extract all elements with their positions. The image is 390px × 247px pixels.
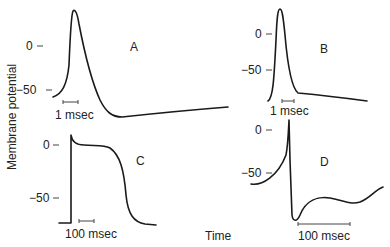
- panel-label-c: C: [136, 154, 145, 168]
- tick-minus-50: −50: [241, 63, 262, 77]
- tick-minus-50: −50: [29, 191, 50, 205]
- scale-bar-c: 100 msec: [65, 227, 117, 241]
- tick-zero: 0: [43, 138, 50, 152]
- panel-label-b: B: [320, 42, 328, 56]
- panel-a: 0 −50 1 msec A: [16, 10, 228, 122]
- x-axis-label: Time: [205, 229, 232, 243]
- y-axis-label: Membrane potential: [5, 64, 19, 170]
- scale-bar-a: 1 msec: [55, 108, 94, 122]
- panel-label-d: D: [320, 155, 329, 169]
- tick-minus-50: −50: [241, 166, 262, 180]
- panel-b: 0 −50 1 msec B: [241, 9, 367, 118]
- scale-bar-b: 1 msec: [270, 104, 309, 118]
- panel-c: 0 −50 100 msec C: [29, 135, 156, 241]
- panel-d: 0 −50 100 msec D: [241, 120, 383, 243]
- action-potential-figure: Membrane potential 0 −50 1 msec A 0 −50 …: [0, 0, 390, 247]
- trace-c: [59, 135, 156, 225]
- tick-zero: 0: [26, 39, 33, 53]
- tick-zero: 0: [255, 27, 262, 41]
- scale-bar-d: 100 msec: [298, 229, 350, 243]
- tick-zero: 0: [255, 123, 262, 137]
- panel-label-a: A: [130, 40, 138, 54]
- trace-d: [251, 120, 383, 220]
- tick-minus-50: −50: [16, 83, 37, 97]
- trace-a: [53, 10, 228, 117]
- trace-b: [268, 9, 367, 101]
